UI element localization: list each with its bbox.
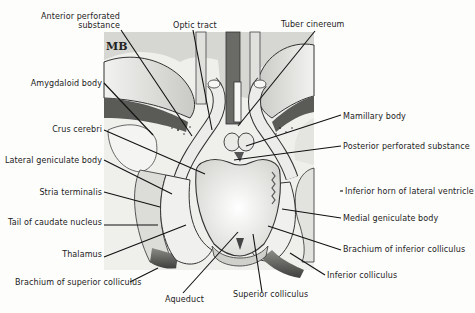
label-inferior-colliculus: Inferior colliculus	[327, 271, 397, 280]
anatomy-diagram: MB	[0, 0, 475, 313]
label-stria-terminalis: Stria terminalis	[0, 188, 102, 197]
label-anterior-perforated-substance-line2: substance	[28, 21, 120, 30]
label-anterior-perforated-substance-line1: Anterior perforated	[28, 12, 120, 21]
label-optic-tract: Optic tract	[173, 21, 217, 30]
label-aqueduct: Aqueduct	[165, 295, 204, 304]
label-medial-geniculate-body: Medial geniculate body	[343, 214, 438, 223]
monogram: MB	[106, 40, 127, 53]
label-inferior-horn-lateral-ventricle: Inferior horn of lateral ventricle	[345, 187, 474, 196]
label-superior-colliculus: Superior colliculus	[233, 290, 308, 299]
label-tuber-cinereum: Tuber cinereum	[281, 20, 345, 29]
label-anterior-perforated-substance: Anterior perforated substance	[28, 12, 120, 30]
label-thalamus: Thalamus	[0, 250, 102, 259]
label-lateral-geniculate-body: Lateral geniculate body	[0, 156, 102, 165]
label-mamillary-body: Mamillary body	[343, 112, 406, 121]
label-amygdaloid-body: Amygdaloid body	[0, 79, 102, 88]
label-crus-cerebri: Crus cerebri	[0, 125, 102, 134]
label-tail-of-caudate-nucleus: Tail of caudate nucleus	[0, 218, 102, 227]
label-posterior-perforated-substance: Posterior perforated substance	[343, 142, 470, 151]
label-brachium-of-inferior-colliculus: Brachium of inferior colliculus	[343, 245, 465, 254]
label-brachium-of-superior-colliculus: Brachium of superior colliculus	[15, 278, 142, 287]
